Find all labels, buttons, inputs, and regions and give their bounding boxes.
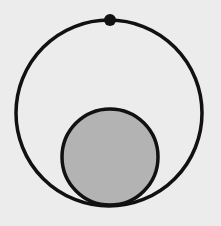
diagram-canvas [0,0,221,226]
inner-circle [62,109,158,205]
point-marker [104,14,116,26]
